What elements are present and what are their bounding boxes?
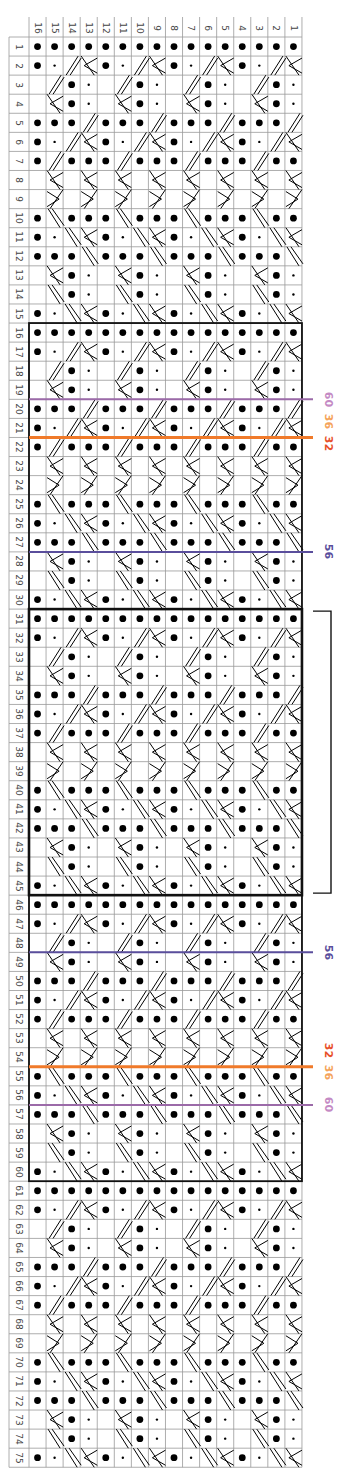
purl-dot-icon: [239, 539, 246, 546]
purl-dot-icon: [239, 920, 246, 927]
purl-dot-icon: [136, 43, 143, 50]
purl-dot-icon: [171, 730, 178, 737]
row-label: 45: [9, 876, 28, 895]
cable-chevron-icon: [118, 745, 131, 760]
row-label: 13: [9, 266, 28, 285]
purl-dot-icon: [290, 43, 297, 50]
purl-dot-icon: [273, 1130, 280, 1137]
purl-dot-icon: [222, 730, 229, 737]
purl-dot-icon: [102, 711, 109, 718]
cable-stroke-icon: [115, 838, 128, 857]
small-dot-icon: [122, 312, 124, 314]
row-number: 3: [13, 82, 23, 88]
row-number: 52: [13, 1013, 23, 1024]
row-label: 52: [9, 1010, 28, 1029]
cable-chevron-icon: [289, 230, 302, 245]
cable-stroke-icon: [252, 1315, 265, 1334]
column-number: 10: [135, 22, 145, 33]
purl-dot-icon: [51, 539, 58, 546]
cable-stroke-icon: [81, 1315, 94, 1334]
purl-dot-icon: [68, 978, 75, 985]
small-dot-icon: [224, 274, 226, 276]
column-label: 11: [114, 18, 131, 37]
cable-chevron-icon: [152, 802, 165, 817]
purl-dot-icon: [239, 43, 246, 50]
purl-dot-icon: [205, 1016, 212, 1023]
cable-stroke-icon: [115, 380, 128, 399]
purl-dot-icon: [136, 253, 143, 260]
cable-chevron-icon: [221, 630, 234, 645]
purl-dot-icon: [34, 43, 41, 50]
row-label: 39: [9, 762, 28, 781]
purl-dot-icon: [239, 348, 246, 355]
cable-stroke-icon: [149, 1372, 162, 1391]
cable-stroke-icon: [115, 1410, 128, 1429]
row-number: 5: [13, 120, 23, 126]
cable-chevron-icon: [289, 516, 302, 531]
purl-dot-icon: [34, 730, 41, 737]
row-number: 9: [13, 196, 23, 202]
cable-chevron-icon: [187, 745, 200, 760]
cable-stroke-icon: [286, 1372, 299, 1391]
purl-dot-icon: [239, 787, 246, 794]
purl-dot-icon: [188, 1111, 195, 1118]
row-number: 50: [13, 975, 23, 986]
purl-dot-icon: [273, 1073, 280, 1080]
small-dot-icon: [258, 1170, 260, 1172]
purl-dot-icon: [51, 978, 58, 985]
cable-chevron-icon: [50, 268, 63, 283]
cable-chevron-icon: [187, 172, 200, 187]
purl-dot-icon: [256, 253, 263, 260]
row-label: 3: [9, 75, 28, 94]
row-number: 72: [13, 1395, 23, 1406]
purl-dot-icon: [136, 1416, 143, 1423]
purl-dot-icon: [205, 863, 212, 870]
cable-chevron-icon: [118, 172, 131, 187]
cable-chevron-icon: [118, 554, 131, 569]
purl-dot-icon: [68, 558, 75, 565]
row-number: 30: [13, 594, 23, 605]
purl-dot-icon: [102, 520, 109, 527]
purl-dot-icon: [273, 787, 280, 794]
cable-stroke-icon: [47, 1124, 60, 1143]
purl-dot-icon: [239, 901, 246, 908]
purl-dot-icon: [205, 615, 212, 622]
purl-dot-icon: [34, 539, 41, 546]
row-number: 68: [13, 1318, 23, 1329]
cable-stroke-icon: [81, 1277, 94, 1296]
purl-dot-icon: [102, 444, 109, 451]
small-dot-icon: [224, 1247, 226, 1249]
row-number: 25: [13, 498, 23, 509]
column-label: 2: [268, 18, 285, 37]
cable-chevron-icon: [118, 268, 131, 283]
row-label: 55: [9, 1067, 28, 1086]
purl-dot-icon: [205, 978, 212, 985]
row-label: 32: [9, 628, 28, 647]
cable-chevron-icon: [152, 1202, 165, 1217]
small-dot-icon: [292, 389, 294, 391]
purl-dot-icon: [171, 882, 178, 889]
cable-chevron-icon: [118, 1240, 131, 1255]
row-number: 32: [13, 632, 23, 643]
cable-stroke-icon: [50, 476, 63, 495]
purl-dot-icon: [136, 558, 143, 565]
cable-stroke-icon: [81, 1200, 94, 1219]
cable-stroke-icon: [289, 1334, 302, 1353]
cable-stroke-icon: [187, 1048, 200, 1067]
column-number: 14: [67, 22, 77, 33]
purl-dot-icon: [239, 882, 246, 889]
cable-stroke-icon: [115, 666, 128, 685]
purl-dot-icon: [256, 119, 263, 126]
cable-stroke-icon: [286, 704, 299, 723]
purl-dot-icon: [290, 329, 297, 336]
cable-chevron-icon: [118, 382, 131, 397]
cable-chevron-icon: [50, 172, 63, 187]
small-dot-icon: [292, 274, 294, 276]
purl-dot-icon: [171, 348, 178, 355]
row-number: 64: [13, 1242, 23, 1253]
purl-dot-icon: [273, 329, 280, 336]
purl-dot-icon: [136, 615, 143, 622]
row-label: 17: [9, 342, 28, 361]
small-dot-icon: [156, 1437, 158, 1439]
cable-stroke-icon: [252, 1410, 265, 1429]
